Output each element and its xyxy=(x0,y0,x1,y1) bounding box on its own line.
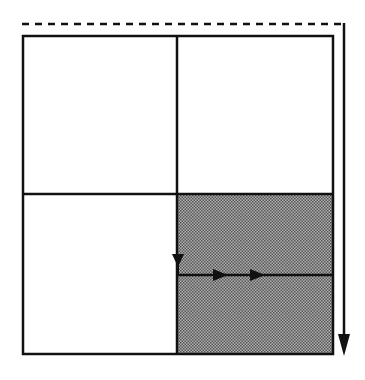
diagram-canvas xyxy=(0,0,365,380)
arrow-down-icon xyxy=(338,334,350,356)
